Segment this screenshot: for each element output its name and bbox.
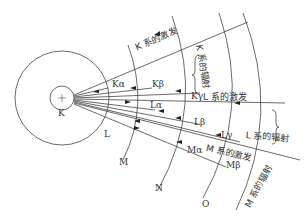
n-shell-label: N (155, 184, 163, 193)
k-alpha-label: Kα (112, 80, 125, 89)
l-beta-label: Lβ (194, 118, 205, 127)
m-alpha-label: Mα (187, 146, 202, 155)
l-shell-label: L (104, 130, 110, 139)
o-shell-label: O (202, 200, 209, 209)
l-gamma-label: Lγ (221, 131, 232, 140)
o-shell-arc (203, 13, 232, 198)
k-beta-label: Kβ (152, 80, 164, 89)
n-shell-arc (158, 16, 186, 190)
l-excitation-label: L 系的激发 (203, 93, 247, 102)
atomic-shell-diagram: K L M N O Kα Kβ Kγ Lα Lβ Lγ Mα Mβ K 系的激发… (0, 0, 307, 223)
k-shell-label: K (58, 109, 65, 118)
m-beta-label: Mβ (226, 161, 240, 170)
m-shell-label: M (119, 158, 128, 167)
l-alpha-label: Lα (150, 101, 162, 110)
k-gamma-label: Kγ (191, 92, 203, 101)
